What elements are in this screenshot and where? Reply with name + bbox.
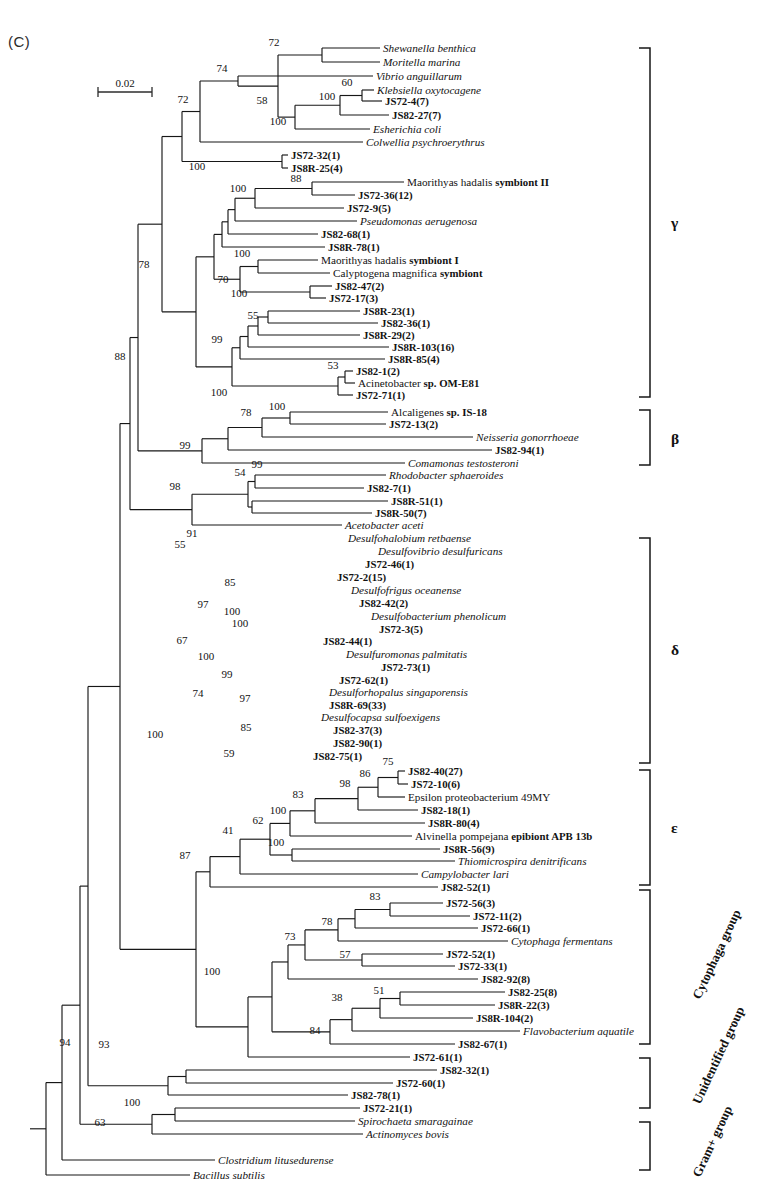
- taxon-label: Maorithyas hadalis symbiont II: [407, 176, 549, 188]
- bootstrap-value: 78: [241, 406, 253, 418]
- bootstrap-value: 94: [60, 1036, 72, 1048]
- bootstrap-value: 55: [248, 309, 260, 321]
- taxon-label: JS82-40(27): [408, 765, 463, 778]
- taxon-label: JS82-18(1): [421, 804, 471, 817]
- taxon-label: Clostridium litusedurense: [218, 1154, 334, 1166]
- taxon-label: Bacillus subtilis: [193, 1169, 265, 1181]
- group-bracket: [639, 1122, 650, 1170]
- bootstrap-value: 99: [252, 458, 264, 470]
- taxon-label: JS82-7(1): [367, 482, 411, 495]
- group-label: Cytophaga group: [689, 907, 744, 1001]
- bootstrap-value: 51: [374, 984, 385, 996]
- group-label: γ: [670, 214, 679, 231]
- group-label: Gram+ group: [689, 1103, 735, 1179]
- taxon-label: JS82-42(2): [359, 597, 409, 610]
- bootstrap-value: 59: [224, 747, 236, 759]
- bootstrap-value: 57: [340, 948, 352, 960]
- taxon-label: JS8R-78(1): [328, 241, 380, 254]
- bootstrap-value: 100: [189, 160, 206, 172]
- taxon-label: Flavobacterium aquatile: [522, 1025, 634, 1037]
- bootstrap-value: 85: [241, 721, 253, 733]
- taxon-label: JS82-44(1): [323, 635, 373, 648]
- taxon-label: Colwellia psychroerythrus: [366, 136, 485, 148]
- taxon-label: Spirochaeta smaragainae: [358, 1115, 473, 1127]
- bootstrap-value: 97: [240, 692, 252, 704]
- bootstrap-value: 72: [178, 93, 189, 105]
- taxon-label: Alvinella pompejana epibiont APB 13b: [415, 830, 592, 842]
- taxon-label: Cytophaga fermentans: [511, 935, 613, 947]
- bootstrap-value: 60: [342, 76, 354, 88]
- bootstrap-value: 83: [370, 890, 382, 902]
- bootstrap-value: 63: [95, 1116, 107, 1128]
- bootstrap-value: 100: [198, 650, 215, 662]
- bootstrap-value: 38: [332, 991, 344, 1003]
- bootstrap-value: 93: [99, 1038, 111, 1050]
- group-bracket: [639, 538, 650, 763]
- taxon-label: Acetobacter aceti: [344, 519, 424, 531]
- scale-bar-label: 0.02: [115, 77, 134, 89]
- taxon-label: Comamonas testosteroni: [408, 457, 519, 469]
- bootstrap-value: 100: [270, 115, 287, 127]
- group-bracket: [639, 410, 650, 465]
- bootstrap-value: 70: [218, 273, 230, 285]
- bootstrap-value: 88: [115, 350, 127, 362]
- bootstrap-value: 100: [269, 400, 286, 412]
- bootstrap-value: 83: [293, 788, 305, 800]
- group-brackets: γβδεCytophaga groupUnidentified groupGra…: [639, 48, 747, 1179]
- taxon-label: JS72-9(5): [347, 202, 391, 215]
- bootstrap-value: 100: [147, 728, 164, 740]
- taxon-label: JS82-90(1): [333, 737, 383, 750]
- group-bracket: [639, 770, 650, 885]
- bootstrap-value: 74: [193, 687, 205, 699]
- taxon-label: JS72-46(1): [365, 558, 415, 571]
- taxon-label: JS8R-25(4): [291, 162, 343, 175]
- taxon-label: JS72-32(1): [291, 149, 341, 162]
- taxon-label: Epsilon proteobacterium 49MY: [408, 791, 550, 803]
- bootstrap-value: 100: [124, 1096, 141, 1108]
- taxon-label: JS82-94(1): [495, 444, 545, 457]
- taxon-label: JS72-17(3): [329, 292, 379, 305]
- taxon-label: JS72-73(1): [381, 661, 431, 674]
- taxon-label: Alcaligenes sp. IS-18: [391, 406, 487, 418]
- bootstrap-value: 99: [212, 333, 224, 345]
- taxon-label: JS72-13(2): [389, 418, 439, 431]
- bootstrap-value: 75: [383, 755, 395, 767]
- taxon-label: Campylobacter lari: [421, 868, 509, 880]
- bootstrap-value: 100: [319, 90, 336, 102]
- taxon-label: JS82-92(8): [481, 973, 531, 986]
- bootstrap-value: 87: [180, 849, 192, 861]
- taxon-label: JS72-33(1): [458, 960, 508, 973]
- group-label: Unidentified group: [689, 1004, 747, 1106]
- bootstrap-value: 41: [223, 824, 234, 836]
- bootstrap-value: 100: [270, 804, 287, 816]
- taxon-label: Rhodobacter sphaeroides: [388, 469, 504, 481]
- group-label: β: [671, 430, 679, 447]
- group-bracket: [639, 890, 650, 1044]
- taxon-label: Shewanella benthica: [383, 42, 476, 54]
- bootstrap-value: 58: [257, 94, 269, 106]
- group-bracket: [639, 1058, 650, 1108]
- bootstrap-value: 100: [232, 617, 249, 629]
- bootstrap-value: 98: [170, 480, 182, 492]
- bootstrap-value: 84: [310, 1024, 322, 1036]
- bootstrap-value: 99: [180, 439, 192, 451]
- bootstrap-value: 73: [285, 930, 297, 942]
- taxon-label: JS82-37(3): [333, 724, 383, 737]
- bootstrap-value: 100: [204, 965, 221, 977]
- bootstrap-value: 67: [177, 634, 189, 646]
- taxon-label: Desulfovibrio desulfuricans: [377, 545, 503, 557]
- taxon-label: Desulfocapsa sulfoexigens: [320, 711, 441, 723]
- bootstrap-value: 91: [187, 527, 198, 539]
- taxon-label: JS8R-22(3): [498, 999, 550, 1012]
- taxon-label: JS8R-80(4): [428, 817, 480, 830]
- taxon-label: JS72-2(15): [337, 571, 387, 584]
- taxon-label: JS82-78(1): [351, 1089, 401, 1102]
- taxon-label: Moritella marina: [382, 56, 461, 68]
- taxon-label: Pseudomonas aerugenosa: [359, 215, 478, 227]
- scale-bar: 0.02: [98, 77, 152, 97]
- bootstrap-value: 100: [224, 605, 241, 617]
- bootstrap-value: 100: [231, 287, 248, 299]
- taxon-label: Esherichia coli: [372, 123, 441, 135]
- taxon-label: JS82-52(1): [441, 881, 491, 894]
- taxon-label: JS82-67(1): [458, 1038, 508, 1051]
